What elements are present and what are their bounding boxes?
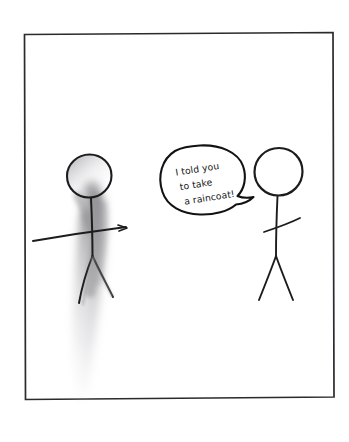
right-figure (255, 148, 303, 300)
left-figure-melting (33, 155, 127, 398)
panel-frame (25, 33, 335, 400)
comic-artwork: I told you to take a raincoat! (0, 0, 349, 442)
left-figure-head (67, 155, 112, 198)
speech-bubble: I told you to take a raincoat! (160, 145, 253, 214)
right-figure-head (255, 148, 303, 196)
right-figure-legs (259, 256, 293, 300)
right-figure-torso (276, 196, 278, 256)
comic-panel: I told you to take a raincoat! (0, 0, 349, 442)
right-figure-arms (264, 218, 300, 232)
